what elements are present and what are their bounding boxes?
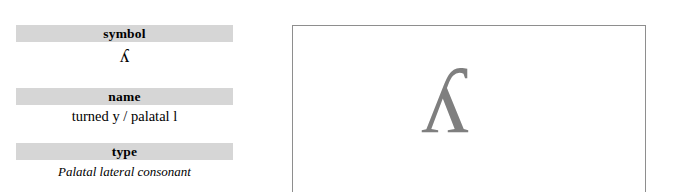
glyph-display-inner: ʎ [293,26,645,168]
field-name: name turned y / palatal l [16,88,233,125]
field-label-type: type [16,143,233,160]
field-value-symbol: ʎ [16,42,233,67]
field-value-type: Palatal lateral consonant [16,160,233,180]
field-label-name: name [16,88,233,105]
glyph-display-box: ʎ [292,25,646,192]
ipa-symbol-card: symbol ʎ name turned y / palatal l type … [0,0,676,192]
field-value-name: turned y / palatal l [16,105,233,125]
large-ipa-glyph: ʎ [421,53,469,149]
field-symbol: symbol ʎ [16,25,233,67]
field-label-symbol: symbol [16,25,233,42]
field-type: type Palatal lateral consonant [16,143,233,180]
